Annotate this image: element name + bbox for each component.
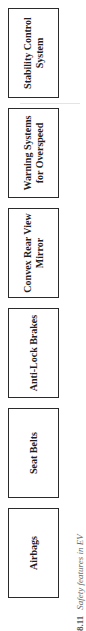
feature-box-overspeed-warning: Warning Systems for Overspeed (8, 108, 59, 198)
feature-label: Stability Control System (22, 9, 46, 97)
feature-label: Convex Rear View Mirror (22, 209, 46, 297)
feature-label: Seat Belts (28, 409, 40, 497)
figure-number: 8.11 (75, 616, 85, 631)
feature-box-stability-control: Stability Control System (8, 8, 59, 98)
feature-label: Airbags (28, 509, 40, 597)
feature-label: Anti-Lock Brakes (28, 309, 40, 397)
divider-line (20, 103, 80, 104)
feature-box-seat-belts: Seat Belts (8, 408, 59, 498)
feature-box-convex-mirror: Convex Rear View Mirror (8, 208, 59, 298)
figure-caption: 8.11Safety features in EV (75, 534, 85, 631)
feature-box-anti-lock-brakes: Anti-Lock Brakes (8, 308, 59, 398)
feature-box-airbags: Airbags (8, 508, 59, 598)
feature-label: Warning Systems for Overspeed (22, 109, 46, 197)
figure-caption-text: Safety features in EV (75, 534, 85, 609)
